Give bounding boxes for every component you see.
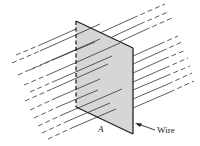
wire-pointer-arrow xyxy=(135,123,155,130)
wire-label: Wire xyxy=(157,125,175,135)
area-label: A xyxy=(97,124,104,134)
magnetic-flux-diagram: A Wire xyxy=(0,0,200,146)
field-lines-back xyxy=(100,4,172,42)
wire-loop-area xyxy=(76,21,133,134)
